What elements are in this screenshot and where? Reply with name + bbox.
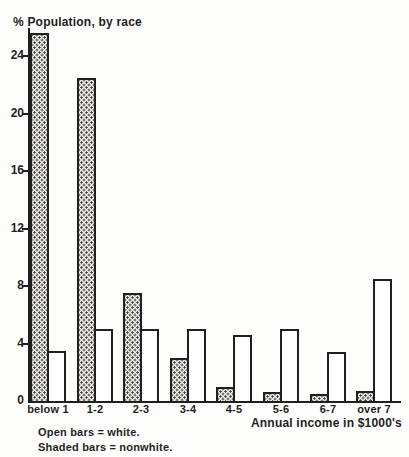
chart-legend: Open bars = white. Shaded bars = nonwhit… — [38, 425, 172, 455]
legend-shaded-bars: Shaded bars = nonwhite. — [38, 440, 172, 455]
bar-white-2-3 — [140, 329, 159, 403]
bar-white-1-2 — [94, 329, 113, 403]
y-tick-label-8: 8 — [4, 279, 24, 292]
chart-title: % Population, by race — [13, 15, 142, 29]
y-tick-label-12: 12 — [4, 222, 24, 235]
y-tick-label-4: 4 — [4, 337, 24, 350]
x-tick-label-over-7: over 7 — [342, 403, 406, 415]
y-tick-mark-12 — [22, 228, 28, 230]
y-tick-label-16: 16 — [4, 164, 24, 177]
y-tick-mark-4 — [22, 343, 28, 345]
bar-nonwhite-below-1 — [30, 33, 49, 403]
y-tick-mark-8 — [22, 285, 28, 287]
bar-white-3-4 — [187, 329, 206, 403]
y-tick-mark-16 — [22, 170, 28, 172]
y-tick-mark-24 — [22, 55, 28, 57]
legend-open-bars: Open bars = white. — [38, 425, 172, 440]
y-tick-mark-20 — [22, 113, 28, 115]
y-tick-label-20: 20 — [4, 107, 24, 120]
bar-white-below-1 — [47, 351, 66, 403]
bar-white-6-7 — [327, 352, 346, 403]
x-axis-title: Annual income in $1000's — [220, 416, 402, 430]
y-tick-label-24: 24 — [4, 49, 24, 62]
bar-white-4-5 — [233, 335, 252, 403]
bar-chart-figure: % Population, by race 04812162024 below … — [0, 0, 409, 457]
bar-white-over-7 — [373, 279, 392, 403]
bar-white-5-6 — [280, 329, 299, 403]
